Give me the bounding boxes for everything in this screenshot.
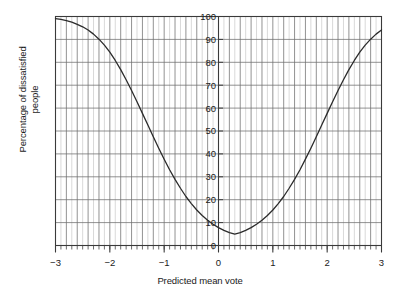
- y-tick-label: 20: [205, 194, 216, 205]
- x-tick-label: −1: [159, 257, 170, 268]
- x-tick-label: 1: [270, 257, 275, 268]
- x-axis-ticks: −3−2−10123: [50, 246, 384, 268]
- chart-figure: Percentage of dissatisfied people 010203…: [0, 0, 400, 297]
- y-tick-label: 60: [205, 103, 216, 114]
- x-axis-title: Predicted mean vote: [0, 275, 400, 286]
- x-tick-label: 0: [216, 257, 221, 268]
- x-tick-label: 3: [379, 257, 384, 268]
- x-tick-label: 2: [325, 257, 330, 268]
- y-tick-label: 70: [205, 80, 216, 91]
- y-tick-label: 100: [200, 11, 216, 22]
- x-tick-label: −3: [50, 257, 61, 268]
- y-tick-label: 30: [205, 171, 216, 182]
- y-tick-label: 40: [205, 148, 216, 159]
- x-tick-label: −2: [104, 257, 115, 268]
- y-tick-label: 50: [205, 125, 216, 136]
- y-tick-label: 80: [205, 57, 216, 68]
- y-tick-label: 90: [205, 34, 216, 45]
- plot-canvas: 0102030405060708090100−3−2−10123: [0, 0, 400, 297]
